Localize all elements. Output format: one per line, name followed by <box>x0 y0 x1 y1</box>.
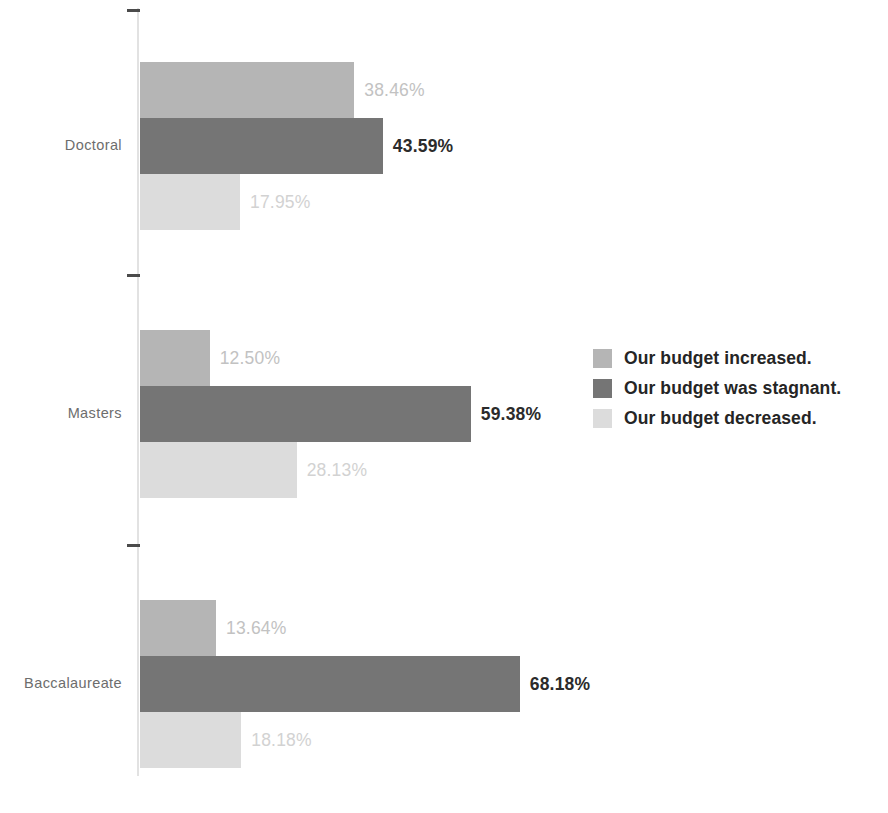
bar-row: 13.64% <box>140 600 880 656</box>
bar[interactable] <box>140 330 210 386</box>
category-label: Baccalaureate <box>0 675 122 691</box>
legend-swatch-icon <box>593 349 612 368</box>
category-label: Masters <box>0 405 122 421</box>
bar-value-label: 17.95% <box>250 192 311 213</box>
legend-label: Our budget was stagnant. <box>624 378 841 399</box>
legend-item[interactable]: Our budget decreased. <box>593 403 841 433</box>
legend-label: Our budget decreased. <box>624 408 817 429</box>
chart-legend: Our budget increased.Our budget was stag… <box>593 343 841 433</box>
legend-item[interactable]: Our budget increased. <box>593 343 841 373</box>
bar-value-label: 28.13% <box>307 460 368 481</box>
axis-tick-2 <box>127 544 140 547</box>
bar-row: 18.18% <box>140 712 880 768</box>
bar-value-label: 59.38% <box>481 404 542 425</box>
bar[interactable] <box>140 442 297 498</box>
bar[interactable] <box>140 386 471 442</box>
bar-chart: Doctoral38.46%43.59%17.95%Masters12.50%5… <box>0 0 888 813</box>
bar[interactable] <box>140 600 216 656</box>
bar[interactable] <box>140 712 241 768</box>
bar-row: 68.18% <box>140 656 880 712</box>
axis-tick-1 <box>127 274 140 277</box>
category-label: Doctoral <box>0 137 122 153</box>
bar[interactable] <box>140 62 354 118</box>
legend-swatch-icon <box>593 409 612 428</box>
legend-item[interactable]: Our budget was stagnant. <box>593 373 841 403</box>
bar-value-label: 13.64% <box>226 618 287 639</box>
bar-value-label: 43.59% <box>393 136 454 157</box>
axis-tick-0 <box>127 9 140 12</box>
bar-row: 38.46% <box>140 62 880 118</box>
bar-value-label: 38.46% <box>364 80 425 101</box>
bar-row: 28.13% <box>140 442 880 498</box>
bar-row: 43.59% <box>140 118 880 174</box>
bar[interactable] <box>140 118 383 174</box>
bar-group: Baccalaureate13.64%68.18%18.18% <box>0 600 888 768</box>
bar-value-label: 68.18% <box>530 674 591 695</box>
legend-swatch-icon <box>593 379 612 398</box>
bar-row: 17.95% <box>140 174 880 230</box>
legend-label: Our budget increased. <box>624 348 812 369</box>
bar[interactable] <box>140 174 240 230</box>
bar-value-label: 12.50% <box>220 348 281 369</box>
bar-value-label: 18.18% <box>251 730 312 751</box>
bar[interactable] <box>140 656 520 712</box>
bar-group: Doctoral38.46%43.59%17.95% <box>0 62 888 230</box>
